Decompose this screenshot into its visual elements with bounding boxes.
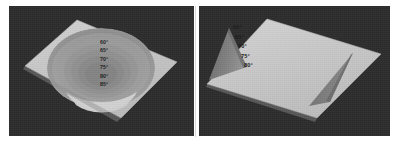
left-angle-label-75: 75° (100, 63, 108, 71)
left-angle-label-60: 60° (100, 38, 108, 46)
right-angle-label-65: 65° (235, 33, 253, 43)
right-angle-label-80: 80° (244, 61, 253, 71)
right-angle-label-stack: 60° 65° 70° 75° 80° (233, 23, 253, 71)
right-surface-graphic (199, 6, 390, 136)
figure-canvas: 60° 65° 70° 75° 80° 85° (0, 0, 398, 147)
right-angle-label-75: 75° (241, 52, 253, 62)
left-angle-label-stack: 60° 65° 70° 75° 80° 85° (100, 38, 108, 88)
right-surface-panel: 60° 65° 70° 75° 80° (199, 6, 390, 136)
panel-divider (195, 6, 196, 137)
left-surface-panel: 60° 65° 70° 75° 80° 85° (9, 6, 194, 136)
left-angle-label-65: 65° (100, 46, 108, 54)
right-angle-label-70: 70° (238, 42, 253, 52)
left-angle-label-80: 80° (100, 72, 108, 80)
right-angle-label-60: 60° (233, 23, 253, 33)
left-angle-label-85: 85° (100, 80, 108, 88)
left-angle-label-70: 70° (100, 55, 108, 63)
